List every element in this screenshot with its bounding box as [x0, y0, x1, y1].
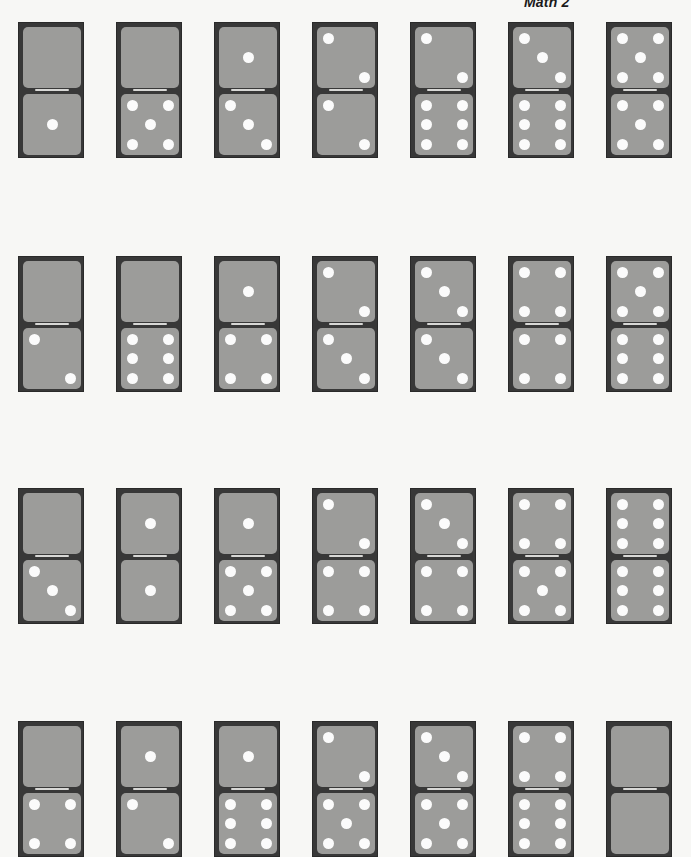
pip-dot-icon: [323, 334, 334, 345]
domino-divider: [525, 788, 559, 790]
pip-dot-icon: [341, 353, 352, 364]
domino-divider: [133, 89, 167, 91]
pip-dot-icon: [323, 33, 334, 44]
domino-tile: [214, 256, 280, 392]
pip-dot-icon: [555, 566, 566, 577]
domino-half-bottom: [23, 328, 81, 389]
pip-dot-icon: [439, 751, 450, 762]
pip-dot-icon: [225, 605, 236, 616]
pip-dot-icon: [555, 306, 566, 317]
domino-divider: [35, 323, 69, 325]
domino-divider: [35, 788, 69, 790]
domino-half-top: [513, 726, 571, 787]
domino-divider: [623, 555, 657, 557]
pip-dot-icon: [555, 499, 566, 510]
pip-dot-icon: [359, 838, 370, 849]
domino-divider: [427, 788, 461, 790]
pip-dot-icon: [225, 334, 236, 345]
pip-dot-icon: [261, 566, 272, 577]
pip-dot-icon: [555, 605, 566, 616]
pip-dot-icon: [225, 100, 236, 111]
pip-dot-icon: [421, 33, 432, 44]
pip-dot-icon: [653, 518, 664, 529]
pip-dot-icon: [519, 732, 530, 743]
domino-half-top: [513, 27, 571, 88]
domino-half-top: [415, 493, 473, 554]
domino-half-bottom: [513, 328, 571, 389]
pip-dot-icon: [617, 566, 628, 577]
domino-half-top: [611, 493, 669, 554]
domino-half-bottom: [611, 560, 669, 621]
pip-dot-icon: [653, 100, 664, 111]
pip-dot-icon: [145, 119, 156, 130]
domino-tile: [18, 256, 84, 392]
pip-dot-icon: [653, 306, 664, 317]
pip-dot-icon: [617, 334, 628, 345]
domino-divider: [427, 323, 461, 325]
pip-dot-icon: [145, 585, 156, 596]
pip-dot-icon: [635, 286, 646, 297]
domino-half-top: [23, 261, 81, 322]
pip-dot-icon: [243, 52, 254, 63]
domino-half-top: [219, 493, 277, 554]
domino-divider: [329, 89, 363, 91]
pip-dot-icon: [653, 139, 664, 150]
pip-dot-icon: [323, 267, 334, 278]
pip-dot-icon: [323, 605, 334, 616]
pip-dot-icon: [145, 518, 156, 529]
domino-half-top: [513, 261, 571, 322]
pip-dot-icon: [617, 518, 628, 529]
pip-dot-icon: [421, 334, 432, 345]
domino-half-bottom: [513, 560, 571, 621]
domino-half-bottom: [23, 560, 81, 621]
domino-tile: [18, 721, 84, 857]
pip-dot-icon: [519, 267, 530, 278]
pip-dot-icon: [457, 538, 468, 549]
pip-dot-icon: [555, 838, 566, 849]
pip-dot-icon: [243, 286, 254, 297]
pip-dot-icon: [617, 373, 628, 384]
pip-dot-icon: [323, 566, 334, 577]
pip-dot-icon: [519, 499, 530, 510]
pip-dot-icon: [359, 72, 370, 83]
domino-half-bottom: [219, 94, 277, 155]
pip-dot-icon: [65, 605, 76, 616]
pip-dot-icon: [617, 353, 628, 364]
domino-half-bottom: [513, 94, 571, 155]
pip-dot-icon: [29, 334, 40, 345]
domino-half-top: [23, 493, 81, 554]
pip-dot-icon: [243, 518, 254, 529]
pip-dot-icon: [261, 838, 272, 849]
pip-dot-icon: [421, 139, 432, 150]
pip-dot-icon: [555, 100, 566, 111]
pip-dot-icon: [653, 538, 664, 549]
pip-dot-icon: [421, 499, 432, 510]
pip-dot-icon: [163, 100, 174, 111]
domino-half-bottom: [219, 793, 277, 854]
domino-half-bottom: [611, 793, 669, 854]
domino-half-bottom: [415, 793, 473, 854]
pip-dot-icon: [519, 838, 530, 849]
pip-dot-icon: [617, 538, 628, 549]
domino-tile: [606, 721, 672, 857]
domino-half-bottom: [23, 94, 81, 155]
pip-dot-icon: [29, 799, 40, 810]
domino-half-top: [121, 493, 179, 554]
domino-half-top: [219, 726, 277, 787]
pip-dot-icon: [359, 799, 370, 810]
pip-dot-icon: [653, 267, 664, 278]
domino-tile: [410, 721, 476, 857]
pip-dot-icon: [145, 751, 156, 762]
pip-dot-icon: [519, 139, 530, 150]
pip-dot-icon: [457, 566, 468, 577]
domino-half-top: [611, 27, 669, 88]
domino-half-bottom: [121, 94, 179, 155]
pip-dot-icon: [519, 334, 530, 345]
pip-dot-icon: [359, 538, 370, 549]
pip-dot-icon: [457, 306, 468, 317]
pip-dot-icon: [261, 799, 272, 810]
domino-tile: [508, 721, 574, 857]
pip-dot-icon: [421, 732, 432, 743]
pip-dot-icon: [457, 100, 468, 111]
domino-divider: [427, 89, 461, 91]
